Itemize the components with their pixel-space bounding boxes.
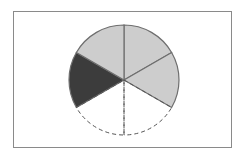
pie-fraction-diagram (0, 0, 247, 162)
